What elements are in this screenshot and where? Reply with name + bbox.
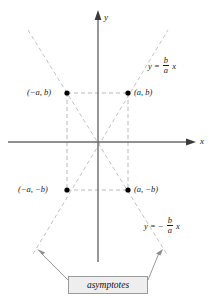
equation-positive-slope: y = b a x — [148, 56, 176, 74]
equation-negative-equals: = — [150, 221, 156, 231]
hyperbola-asymptote-diagram: y x (−a, b) (a, b) (−a, −b) (a, −b) y = … — [0, 0, 216, 298]
equation-negative-fraction: b a — [167, 216, 173, 234]
y-axis-label: y — [104, 13, 108, 22]
asymptotes-callout-box: asymptotes — [68, 276, 148, 294]
callout-arrow-right-shaft — [148, 253, 159, 280]
x-axis-arrowhead — [186, 139, 196, 146]
x-axis-label: x — [200, 137, 204, 146]
equation-negative-slope: y = − b a x — [144, 216, 180, 234]
y-axis-arrowhead — [95, 10, 102, 20]
diagram-canvas — [0, 0, 216, 298]
equation-positive-fraction: b a — [163, 56, 169, 74]
point-marker-neg-a-b — [64, 90, 69, 95]
equation-negative-sign: − — [158, 221, 164, 231]
equation-positive-variable: x — [172, 61, 176, 71]
point-label-a-b: (a, b) — [134, 88, 152, 97]
callout-arrow-right-head — [156, 249, 163, 256]
asymptotes-callout-label: asymptotes — [87, 280, 129, 290]
callout-arrow-left-head — [37, 249, 45, 255]
equation-positive-denominator: a — [163, 66, 169, 75]
point-label-neg-a-neg-b: (−a, −b) — [18, 185, 48, 194]
equation-positive-lhs: y — [148, 61, 152, 71]
equation-positive-equals: = — [154, 61, 160, 71]
equation-negative-lhs: y — [144, 221, 148, 231]
equation-negative-denominator: a — [167, 226, 173, 235]
equation-negative-variable: x — [176, 221, 180, 231]
point-marker-a-neg-b — [125, 187, 130, 192]
point-marker-a-b — [125, 90, 130, 95]
callout-arrow-left-shaft — [41, 253, 68, 280]
point-label-a-neg-b: (a, −b) — [134, 185, 158, 194]
point-label-neg-a-b: (−a, b) — [27, 88, 51, 97]
point-marker-neg-a-neg-b — [64, 187, 69, 192]
